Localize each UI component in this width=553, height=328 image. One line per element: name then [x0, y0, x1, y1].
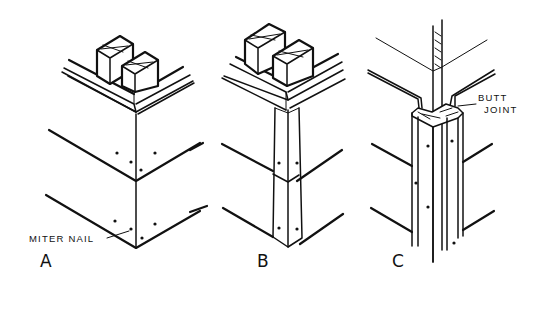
panel-c-corner-post-body [412, 104, 463, 262]
panel-a-mitered-corner: MITER NAIL A [29, 36, 200, 271]
panel-a-label: A [40, 251, 52, 271]
panel-b-corner-boards: B [190, 24, 345, 271]
panel-c-label: C [392, 251, 404, 271]
panel-b-siding [190, 108, 343, 247]
miter-nail-label: MITER NAIL [29, 233, 94, 244]
panel-b-label: B [257, 251, 269, 271]
siding-corner-diagram: MITER NAIL A [0, 0, 553, 328]
butt-joint-leader [458, 104, 476, 106]
panel-a-studs [97, 36, 158, 92]
panel-c-corner-post: BUTT JOINT C [368, 20, 517, 271]
butt-joint-label-line1: BUTT [478, 92, 508, 103]
panel-c-sill [368, 70, 495, 108]
butt-joint-label-line2: JOINT [484, 104, 517, 115]
panel-a-siding [46, 114, 200, 248]
